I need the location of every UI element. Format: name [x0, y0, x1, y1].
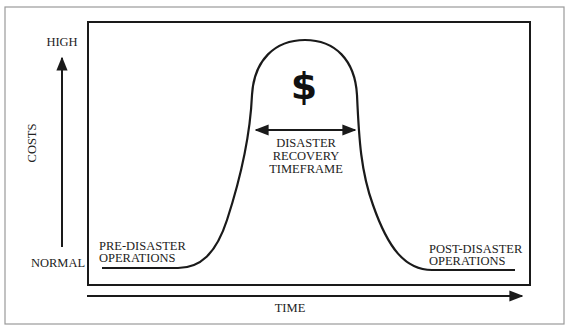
- cost-timeline-diagram: $ HIGH NORMAL COSTS TIME PRE-DISASTER OP…: [0, 0, 570, 330]
- y-axis-label: COSTS: [25, 124, 39, 163]
- recovery-label-line1: DISASTER: [276, 136, 336, 150]
- recovery-label-line2: RECOVERY: [273, 149, 340, 163]
- y-high-label: HIGH: [46, 35, 77, 49]
- post-disaster-label-line2: OPERATIONS: [429, 254, 505, 268]
- x-axis-label: TIME: [275, 301, 306, 315]
- dollar-icon: $: [291, 64, 317, 108]
- y-normal-label: NORMAL: [31, 256, 85, 270]
- pre-disaster-label-line2: OPERATIONS: [99, 251, 175, 265]
- recovery-label-line3: TIMEFRAME: [269, 162, 343, 176]
